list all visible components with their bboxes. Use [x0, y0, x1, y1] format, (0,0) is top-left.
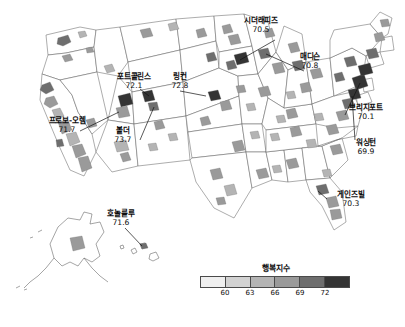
map-figure: 시더래피즈 70.5 매디슨 70.8 포트콜린스 72.1 링컨 72.8 프… [0, 0, 405, 327]
legend-swatch-3 [275, 277, 300, 287]
legend-tick-63: 63 [246, 289, 255, 297]
legend-swatch-4 [300, 277, 325, 287]
legend-color-bar [200, 276, 350, 288]
legend-swatch-2 [251, 277, 276, 287]
legend-swatch-5 [325, 277, 349, 287]
map-legend: 행복지수 6063666972 [200, 262, 352, 300]
leader-line-honolulu [125, 228, 142, 246]
legend-tick-60: 60 [221, 289, 230, 297]
legend-tick-72: 72 [321, 289, 330, 297]
legend-tick-69: 69 [296, 289, 305, 297]
alaska-inset [16, 212, 108, 290]
legend-swatch-1 [226, 277, 251, 287]
legend-tick-66: 66 [271, 289, 280, 297]
hawaii-inset [120, 243, 159, 261]
legend-swatch-0 [201, 277, 226, 287]
legend-tick-labels: 6063666972 [200, 289, 350, 300]
legend-title: 행복지수 [200, 262, 352, 273]
